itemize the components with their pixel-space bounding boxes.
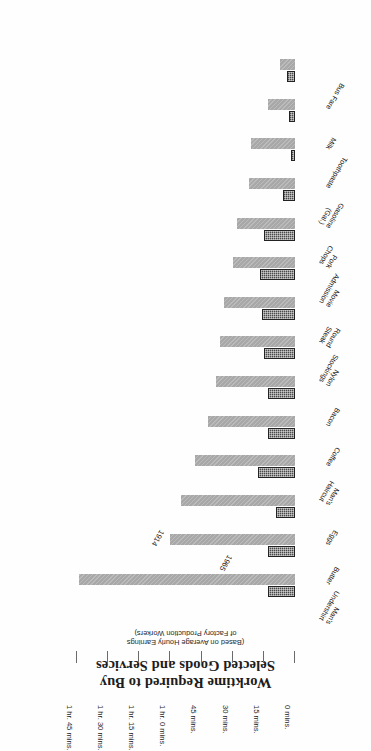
bar-1965 [283,190,295,201]
bar-1914 [195,455,295,466]
x-axis-tick-label: 1 hr. 15 mins. [127,705,136,751]
x-axis-tick-label: 1 hr. 45 mins. [65,705,74,751]
x-axis-tick-label: 0 mins. [283,705,292,729]
x-axis-tick [294,651,295,663]
x-axis-tick-label: 15 mins. [252,705,261,734]
x-axis-tick-label: 45 mins. [189,705,198,734]
x-axis-tick [138,651,139,663]
bar-1965 [268,546,295,557]
series-annotation-1914: 1914 [150,529,166,548]
bar-1965 [264,348,295,359]
bar-1914 [249,178,295,189]
bar-1965 [289,111,295,122]
x-axis-tick [263,651,264,663]
bar-1914 [224,297,295,308]
bar-1914 [220,336,295,347]
bar-1965 [258,467,295,478]
x-axis-tick-label: 30 mins. [221,705,230,734]
bar-1914 [280,59,295,70]
bar-1965 [291,150,295,161]
bar-1914 [251,138,295,149]
bar-1914 [268,99,295,110]
bar-1965 [268,428,295,439]
x-axis-tick-label: 1 hr. 30 mins. [96,705,105,751]
x-axis-tick [201,651,202,663]
x-axis-tick [232,651,233,663]
x-axis-tick-label: 1 hr. 0 mins. [158,705,167,746]
series-annotation-1965: 1965 [218,554,234,573]
bar-1965 [287,71,295,82]
bar-1965 [268,586,295,597]
bar-1965 [276,507,295,518]
bar-1914 [181,495,295,506]
x-axis-tick [107,651,108,663]
bar-1914 [208,416,295,427]
bar-1914 [170,534,295,545]
x-axis-tick [76,651,77,663]
bar-1965 [262,309,295,320]
bar-1965 [260,269,295,280]
bar-1914 [216,376,295,387]
bar-1914 [233,257,295,268]
category-label: Man'sUndershirt [317,566,361,626]
bar-1914 [79,574,295,585]
bar-1914 [237,218,295,229]
x-axis-tick [169,651,170,663]
bar-1965 [264,230,295,241]
bar-1965 [268,388,295,399]
